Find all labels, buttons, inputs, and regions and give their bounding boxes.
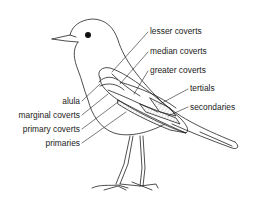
beak-lower	[52, 39, 78, 42]
eye	[85, 32, 91, 38]
back-outline	[70, 19, 235, 142]
foot-left	[92, 185, 128, 188]
beak-upper	[52, 35, 76, 39]
label-greater-coverts: greater coverts	[150, 66, 206, 74]
leg-right	[140, 136, 142, 186]
label-marginal-coverts: marginal coverts	[19, 111, 80, 119]
label-lesser-coverts: lesser coverts	[150, 27, 202, 35]
label-secondaries: secondaries	[190, 103, 235, 111]
label-tertials: tertials	[190, 84, 215, 92]
label-median-coverts: median coverts	[150, 47, 207, 55]
label-primaries: primaries	[46, 139, 80, 147]
label-primary-coverts: primary coverts	[23, 125, 80, 133]
label-alula: alula	[62, 97, 80, 105]
tail	[172, 124, 238, 149]
